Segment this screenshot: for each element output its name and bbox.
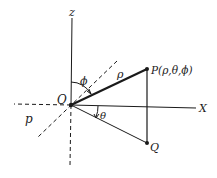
z-axis-negative — [70, 105, 71, 165]
theta-label: θ — [100, 110, 106, 121]
z-axis-label: z — [68, 6, 75, 19]
y-axis-dashed — [38, 61, 117, 137]
origin-point — [69, 103, 73, 107]
oq-segment — [71, 105, 147, 143]
point-q-label: Q — [150, 141, 159, 154]
plane-label: p — [25, 112, 33, 126]
x-axis-label: X — [198, 102, 208, 115]
point-p — [145, 67, 149, 71]
z-axis — [71, 18, 72, 105]
origin-label: O — [57, 93, 67, 107]
rho-label: ρ — [116, 68, 124, 81]
spherical-coordinates-diagram: z X O P(ρ,θ,ϕ) Q ρ ϕ θ p — [0, 0, 217, 178]
x-axis — [71, 105, 196, 108]
point-p-label: P(ρ,θ,ϕ) — [150, 64, 193, 76]
point-q — [145, 141, 149, 145]
phi-label: ϕ — [80, 75, 88, 88]
